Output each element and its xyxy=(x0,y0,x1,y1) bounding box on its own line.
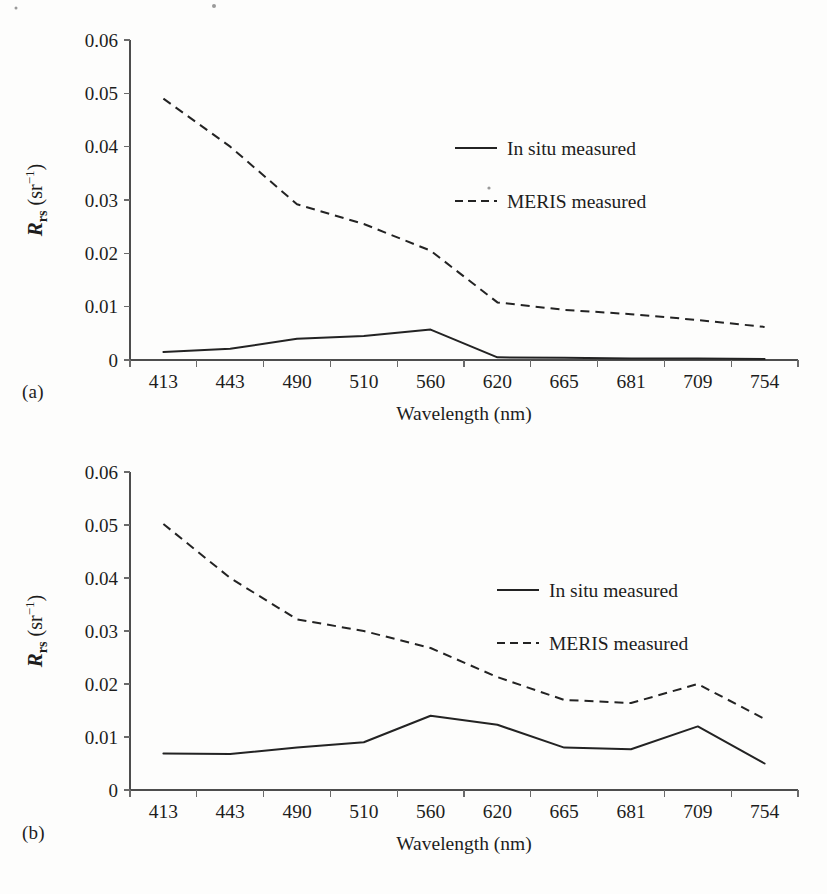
scan-speck xyxy=(212,4,216,8)
y-axis-title: Rrs (sr−1) xyxy=(22,164,50,237)
x-axis-tick-label: 754 xyxy=(750,371,780,392)
x-axis-tick-label: 560 xyxy=(416,801,445,822)
y-axis-tick-label: 0.03 xyxy=(85,621,118,642)
y-axis-tick-label: 0.06 xyxy=(85,462,118,483)
y-axis-tick-label: 0.04 xyxy=(85,136,119,157)
chart-b-svg: 0.060.050.040.030.020.010413443490510560… xyxy=(0,440,827,894)
scan-speck xyxy=(15,7,18,10)
x-axis-tick-label: 510 xyxy=(349,801,378,822)
y-axis-tick-label: 0.01 xyxy=(85,727,118,748)
y-axis-tick-label: 0 xyxy=(109,350,119,371)
panel-label-b: (b) xyxy=(22,822,45,844)
x-axis-tick-label: 754 xyxy=(750,801,780,822)
x-axis-tick-label: 490 xyxy=(282,801,311,822)
x-axis-tick-label: 709 xyxy=(683,801,712,822)
x-axis-tick-label: 560 xyxy=(416,371,445,392)
series-line-insitu xyxy=(163,716,764,764)
y-axis-tick-label: 0.01 xyxy=(85,296,118,317)
scan-speck xyxy=(487,186,490,189)
svg-text:Rrs (sr−1): Rrs (sr−1) xyxy=(22,164,50,237)
series-line-meris xyxy=(163,524,764,719)
x-axis-tick-label: 709 xyxy=(683,371,712,392)
x-axis-tick-label: 443 xyxy=(216,371,245,392)
x-axis-tick-label: 681 xyxy=(616,801,645,822)
chart-panel-b: 0.060.050.040.030.020.010413443490510560… xyxy=(0,440,827,894)
y-axis-tick-label: 0 xyxy=(109,780,119,801)
legend-label: MERIS measured xyxy=(507,191,646,212)
y-axis-tick-label: 0.05 xyxy=(85,515,118,536)
x-axis-title: Wavelength (nm) xyxy=(396,403,531,425)
y-axis-tick-label: 0.02 xyxy=(85,243,118,264)
x-axis-tick-label: 443 xyxy=(216,801,245,822)
x-axis-tick-label: 413 xyxy=(149,371,178,392)
figure-page: 0.060.050.040.030.020.010413443490510560… xyxy=(0,0,827,894)
x-axis-tick-label: 620 xyxy=(483,371,512,392)
x-axis-tick-label: 490 xyxy=(282,371,311,392)
x-axis-tick-label: 620 xyxy=(483,801,512,822)
y-axis-tick-label: 0.06 xyxy=(85,30,118,51)
svg-text:Rrs (sr−1): Rrs (sr−1) xyxy=(22,595,50,668)
y-axis-tick-label: 0.02 xyxy=(85,674,118,695)
x-axis-title: Wavelength (nm) xyxy=(396,833,531,855)
y-axis-title: Rrs (sr−1) xyxy=(22,595,50,668)
series-line-meris xyxy=(163,99,764,327)
legend-label: In situ measured xyxy=(549,580,678,601)
x-axis-tick-label: 665 xyxy=(550,801,579,822)
chart-panel-a: 0.060.050.040.030.020.010413443490510560… xyxy=(0,0,827,440)
panel-label-a: (a) xyxy=(22,381,44,403)
x-axis-tick-label: 681 xyxy=(616,371,645,392)
x-axis-tick-label: 413 xyxy=(149,801,178,822)
chart-a-svg: 0.060.050.040.030.020.010413443490510560… xyxy=(0,0,827,440)
y-axis-tick-label: 0.04 xyxy=(85,568,119,589)
legend-label: In situ measured xyxy=(507,138,636,159)
y-axis-tick-label: 0.05 xyxy=(85,83,118,104)
y-axis-tick-label: 0.03 xyxy=(85,190,118,211)
series-line-insitu xyxy=(163,330,764,359)
x-axis-tick-label: 510 xyxy=(349,371,378,392)
legend-label: MERIS measured xyxy=(549,633,688,654)
x-axis-tick-label: 665 xyxy=(550,371,579,392)
